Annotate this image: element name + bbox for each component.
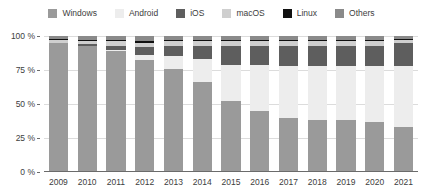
legend-swatch-icon (283, 9, 292, 18)
bar-segment-ios[interactable] (164, 46, 183, 57)
stacked-bar[interactable] (365, 36, 384, 172)
bar-segment-windows[interactable] (336, 120, 355, 172)
bar-segment-android[interactable] (221, 65, 240, 102)
stacked-bar[interactable] (106, 36, 125, 172)
bar-slot-2011 (102, 36, 131, 172)
bar-slot-2020 (360, 36, 389, 172)
legend-item-linux[interactable]: Linux (283, 9, 317, 18)
legend-swatch-icon (176, 9, 185, 18)
legend-item-ios[interactable]: iOS (176, 9, 204, 18)
x-tick-label: 2010 (73, 175, 102, 189)
bar-slot-2014 (188, 36, 217, 172)
stacked-bar[interactable] (279, 36, 298, 172)
bar-segment-android[interactable] (279, 66, 298, 118)
y-tick-mark (37, 172, 40, 173)
stacked-bar[interactable] (394, 36, 413, 172)
bar-slot-2018 (303, 36, 332, 172)
bar-segment-ios[interactable] (221, 46, 240, 65)
y-tick-label: 0 % (20, 167, 35, 177)
legend-item-windows[interactable]: Windows (48, 9, 96, 18)
x-tick-label: 2018 (303, 175, 332, 189)
chart-legend: WindowsAndroidiOSmacOSLinuxOthers (0, 9, 423, 18)
bar-segment-android[interactable] (250, 65, 269, 111)
bar-segment-windows[interactable] (221, 101, 240, 172)
bar-group (44, 36, 418, 172)
y-tick-mark (37, 36, 40, 37)
y-tick-mark (37, 70, 40, 71)
stacked-bar[interactable] (308, 36, 327, 172)
stacked-bar[interactable] (164, 36, 183, 172)
bar-slot-2016 (245, 36, 274, 172)
bar-segment-ios[interactable] (394, 43, 413, 66)
bar-segment-windows[interactable] (365, 122, 384, 172)
x-tick-label: 2012 (130, 175, 159, 189)
y-axis: 0 %25 %50 %75 %100 % (0, 36, 40, 172)
legend-item-macos[interactable]: macOS (222, 9, 264, 18)
legend-swatch-icon (222, 9, 231, 18)
bar-slot-2015 (217, 36, 246, 172)
legend-item-others[interactable]: Others (335, 9, 375, 18)
bar-slot-2013 (159, 36, 188, 172)
x-tick-label: 2011 (102, 175, 131, 189)
bar-segment-ios[interactable] (193, 46, 212, 60)
x-tick-label: 2009 (44, 175, 73, 189)
x-tick-label: 2020 (360, 175, 389, 189)
legend-label: Others (349, 9, 375, 18)
plot-area (44, 36, 418, 172)
stacked-bar[interactable] (49, 36, 68, 172)
legend-label: Android (129, 9, 158, 18)
y-tick-label: 100 % (11, 31, 35, 41)
bar-segment-ios[interactable] (250, 46, 269, 65)
stacked-bar[interactable] (78, 36, 97, 172)
stacked-bar[interactable] (250, 36, 269, 172)
y-tick-mark (37, 138, 40, 139)
bar-slot-2010 (73, 36, 102, 172)
legend-item-android[interactable]: Android (115, 9, 158, 18)
bar-segment-windows[interactable] (164, 69, 183, 172)
bar-segment-windows[interactable] (78, 46, 97, 172)
x-tick-label: 2014 (188, 175, 217, 189)
bar-segment-ios[interactable] (308, 46, 327, 66)
bar-segment-windows[interactable] (106, 51, 125, 172)
y-tick-label: 75 % (16, 65, 35, 75)
y-tick-label: 25 % (16, 133, 35, 143)
x-axis: 2009201020112012201320142015201620172018… (44, 175, 418, 189)
bar-segment-android[interactable] (336, 66, 355, 120)
x-tick-label: 2019 (332, 175, 361, 189)
bar-slot-2021 (389, 36, 418, 172)
legend-label: Linux (297, 9, 317, 18)
legend-swatch-icon (48, 9, 57, 18)
bar-segment-android[interactable] (164, 56, 183, 68)
bar-segment-android[interactable] (193, 59, 212, 82)
x-tick-label: 2016 (245, 175, 274, 189)
stacked-bar[interactable] (135, 36, 154, 172)
stacked-bar[interactable] (221, 36, 240, 172)
legend-label: Windows (62, 9, 96, 18)
bar-segment-windows[interactable] (308, 120, 327, 172)
x-axis-line (44, 171, 418, 172)
bar-segment-windows[interactable] (394, 127, 413, 172)
x-tick-label: 2021 (389, 175, 418, 189)
legend-swatch-icon (115, 9, 124, 18)
stacked-bar-chart: WindowsAndroidiOSmacOSLinuxOthers 0 %25 … (0, 0, 423, 193)
bar-segment-android[interactable] (394, 66, 413, 127)
bar-segment-android[interactable] (365, 66, 384, 122)
bar-slot-2009 (44, 36, 73, 172)
stacked-bar[interactable] (193, 36, 212, 172)
bar-segment-windows[interactable] (279, 118, 298, 172)
x-tick-label: 2015 (217, 175, 246, 189)
bar-slot-2012 (130, 36, 159, 172)
bar-segment-windows[interactable] (193, 82, 212, 172)
legend-label: macOS (236, 9, 264, 18)
bar-segment-windows[interactable] (250, 111, 269, 172)
bar-segment-android[interactable] (308, 66, 327, 120)
bar-segment-windows[interactable] (49, 43, 68, 172)
y-tick-mark (37, 104, 40, 105)
legend-swatch-icon (335, 9, 344, 18)
bar-segment-ios[interactable] (336, 46, 355, 66)
bar-segment-ios[interactable] (135, 47, 154, 55)
bar-segment-ios[interactable] (365, 46, 384, 66)
stacked-bar[interactable] (336, 36, 355, 172)
bar-segment-windows[interactable] (135, 60, 154, 172)
bar-segment-ios[interactable] (279, 46, 298, 66)
